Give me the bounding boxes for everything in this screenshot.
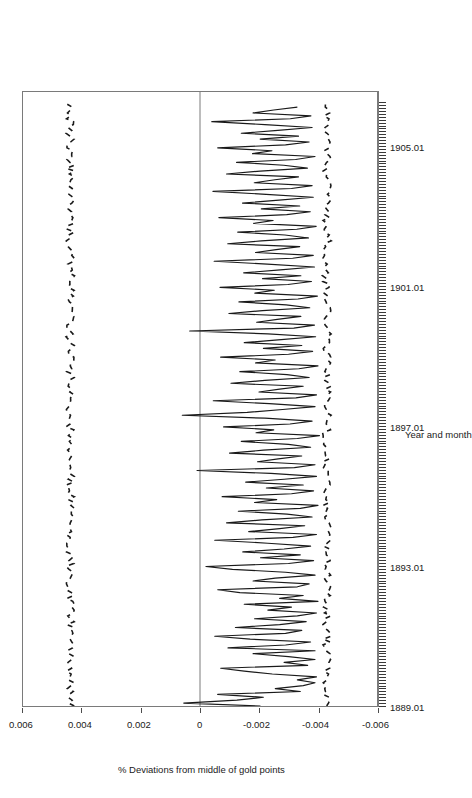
x-axis-minor-tick xyxy=(379,341,386,342)
y-axis-tick xyxy=(200,708,201,713)
y-axis-tick xyxy=(378,708,379,713)
x-axis-minor-tick xyxy=(379,242,386,243)
y-axis-tick-label: -0.006 xyxy=(362,719,389,730)
deviation-series-line xyxy=(182,107,319,706)
x-axis-minor-tick xyxy=(379,461,386,462)
x-axis-minor-tick xyxy=(379,633,386,634)
x-axis-minor-tick xyxy=(379,306,386,307)
x-axis-minor-tick xyxy=(379,406,386,407)
x-axis-minor-tick xyxy=(379,193,386,194)
x-axis-minor-tick xyxy=(379,464,386,465)
x-axis-minor-tick xyxy=(379,411,386,412)
x-axis-minor-tick xyxy=(379,219,386,220)
x-axis-minor-tick xyxy=(379,595,386,596)
x-axis-minor-tick xyxy=(379,251,386,252)
x-axis-minor-tick xyxy=(379,315,386,316)
x-axis-minor-tick xyxy=(379,114,386,115)
y-axis-tick xyxy=(81,708,82,713)
y-axis-tick-label: 0 xyxy=(197,719,202,730)
x-axis-minor-tick xyxy=(379,172,386,173)
x-axis-minor-tick xyxy=(379,481,386,482)
upper-gold-point-line xyxy=(66,104,75,706)
x-axis-minor-tick xyxy=(379,146,386,147)
x-axis-minor-tick xyxy=(379,627,386,628)
x-axis-minor-tick xyxy=(379,318,386,319)
x-axis-minor-tick xyxy=(379,333,386,334)
x-axis-minor-tick xyxy=(379,581,386,582)
x-axis-minor-tick xyxy=(379,668,386,669)
x-axis-minor-tick xyxy=(379,584,386,585)
x-axis-tick-label: 1901.01 xyxy=(390,282,424,293)
x-axis-minor-tick xyxy=(379,181,386,182)
x-axis-minor-tick xyxy=(379,508,386,509)
x-axis-minor-tick xyxy=(379,493,386,494)
x-axis-minor-tick xyxy=(379,274,386,275)
x-axis-minor-tick xyxy=(379,228,386,229)
x-axis-minor-tick xyxy=(379,382,386,383)
x-axis-minor-tick xyxy=(379,514,386,515)
x-axis-minor-tick xyxy=(379,700,386,701)
x-axis-minor-tick xyxy=(379,409,386,410)
x-axis-minor-tick xyxy=(379,546,386,547)
x-axis-minor-tick xyxy=(379,213,386,214)
x-axis-minor-tick xyxy=(379,196,386,197)
x-axis-minor-tick xyxy=(379,616,386,617)
x-axis-minor-tick xyxy=(379,199,386,200)
x-axis-minor-tick xyxy=(379,429,386,430)
x-axis-minor-tick xyxy=(379,689,386,690)
x-axis-minor-tick xyxy=(379,379,386,380)
x-axis-minor-tick xyxy=(379,703,386,704)
x-axis-minor-tick xyxy=(379,166,386,167)
x-axis-tick-label: 1893.01 xyxy=(390,562,424,573)
x-axis-tick-label: 1889.01 xyxy=(390,702,424,713)
x-axis-minor-tick xyxy=(379,210,386,211)
x-axis-minor-tick xyxy=(379,452,386,453)
x-axis-minor-tick xyxy=(379,397,386,398)
x-axis-minor-tick xyxy=(379,697,386,698)
x-axis-minor-tick xyxy=(379,271,386,272)
x-axis-minor-tick xyxy=(379,152,386,153)
x-axis-minor-tick xyxy=(379,394,386,395)
x-axis-minor-tick xyxy=(379,575,386,576)
x-axis-minor-tick xyxy=(379,432,386,433)
x-axis-minor-tick xyxy=(379,216,386,217)
x-axis-minor-tick xyxy=(379,534,386,535)
x-axis-minor-tick xyxy=(379,111,386,112)
x-axis-minor-tick xyxy=(379,175,386,176)
x-axis-minor-tick xyxy=(379,102,386,103)
x-axis-minor-tick xyxy=(379,292,386,293)
x-axis-minor-tick xyxy=(379,356,386,357)
x-axis-minor-tick xyxy=(379,636,386,637)
x-axis-minor-tick xyxy=(379,654,386,655)
x-axis-minor-tick xyxy=(379,651,386,652)
x-axis-minor-tick xyxy=(379,324,386,325)
plot-area xyxy=(22,91,378,707)
x-axis-minor-tick xyxy=(379,569,386,570)
x-axis-minor-tick xyxy=(379,234,386,235)
x-axis-minor-tick xyxy=(379,304,386,305)
x-axis-minor-tick xyxy=(379,225,386,226)
x-axis-minor-tick xyxy=(379,327,386,328)
x-axis-minor-tick xyxy=(379,435,386,436)
x-axis-minor-tick xyxy=(379,108,386,109)
x-axis-minor-tick xyxy=(379,560,386,561)
x-axis-minor-tick xyxy=(379,467,386,468)
x-axis-minor-tick xyxy=(379,277,386,278)
x-axis-minor-tick xyxy=(379,164,386,165)
x-axis-minor-tick xyxy=(379,312,386,313)
x-axis-minor-tick xyxy=(379,630,386,631)
x-axis-minor-tick xyxy=(379,624,386,625)
x-axis-minor-tick xyxy=(379,149,386,150)
x-axis-minor-tick xyxy=(379,105,386,106)
x-axis-minor-tick xyxy=(379,365,386,366)
x-axis-minor-tick xyxy=(379,286,386,287)
x-axis-minor-tick xyxy=(379,301,386,302)
x-axis-minor-tick xyxy=(379,441,386,442)
x-axis-minor-tick xyxy=(379,525,386,526)
x-axis-minor-tick xyxy=(379,496,386,497)
x-axis-minor-tick xyxy=(379,598,386,599)
x-axis-minor-tick xyxy=(379,557,386,558)
x-axis-minor-tick xyxy=(379,479,386,480)
x-axis-minor-tick xyxy=(379,155,386,156)
